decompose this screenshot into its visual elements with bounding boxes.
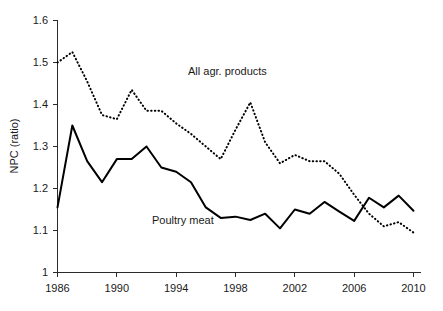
y-tick-label-3: 1.3 [33,140,48,152]
series-line-poultry-meat [58,126,414,229]
x-tick-label-5: 2006 [342,282,366,294]
x-tick-label-2: 1994 [164,282,188,294]
y-tick-label-4: 1.4 [33,98,48,110]
line-chart: 1.6 1.5 1.4 1.3 1.2 1.1 1 1986 1990 1994… [0,0,443,311]
series-annotation-poultry-meat: Poultry meat [152,214,214,226]
y-tick-label-2: 1.2 [33,182,48,194]
x-tick-label-3: 1998 [223,282,247,294]
y-tick-label-6: 1.6 [33,14,48,26]
y-tick-label-0: 1 [42,266,48,278]
chart-figure: 1.6 1.5 1.4 1.3 1.2 1.1 1 1986 1990 1994… [0,0,443,311]
y-axis-tick-labels: 1.6 1.5 1.4 1.3 1.2 1.1 1 [33,14,48,278]
x-tick-label-0: 1986 [45,282,69,294]
x-tick-label-6: 2010 [401,282,425,294]
y-tick-label-5: 1.5 [33,56,48,68]
y-tick-label-1: 1.1 [33,224,48,236]
series-line-all-agr-products [58,52,414,233]
x-axis-tick-labels: 1986 1990 1994 1998 2002 2006 2010 [45,282,425,294]
x-tick-label-4: 2002 [283,282,307,294]
y-axis-ticks [53,21,58,273]
series-annotation-all-agr-products: All agr. products [188,65,267,77]
x-axis-ticks [58,273,414,278]
axes-group [58,20,422,273]
x-tick-label-1: 1990 [105,282,129,294]
y-axis-title: NPC (ratio) [8,118,20,173]
